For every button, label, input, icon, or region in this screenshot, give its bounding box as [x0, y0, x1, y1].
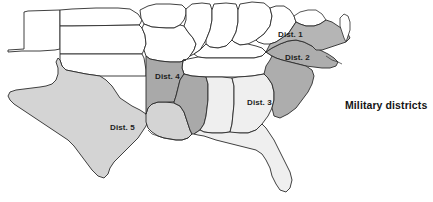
district-3-label: Dist. 3	[247, 99, 272, 107]
military-districts-caption: Military districts	[345, 99, 427, 111]
district-5-label: Dist. 5	[110, 124, 135, 132]
state-kansas	[60, 25, 146, 54]
state-colorado	[8, 10, 60, 52]
military-districts-figure: Dist. 1 Dist. 2 Dist. 3 Dist. 4 Dist. 5 …	[0, 0, 433, 202]
district-3-florida[interactable]	[194, 124, 292, 192]
district-1-label: Dist. 1	[278, 31, 303, 39]
district-2-label: Dist. 2	[285, 54, 310, 62]
district-4-label: Dist. 4	[155, 73, 180, 81]
state-iowa	[140, 4, 186, 28]
state-nebraska	[60, 8, 142, 26]
district-2-region[interactable]	[264, 40, 338, 118]
